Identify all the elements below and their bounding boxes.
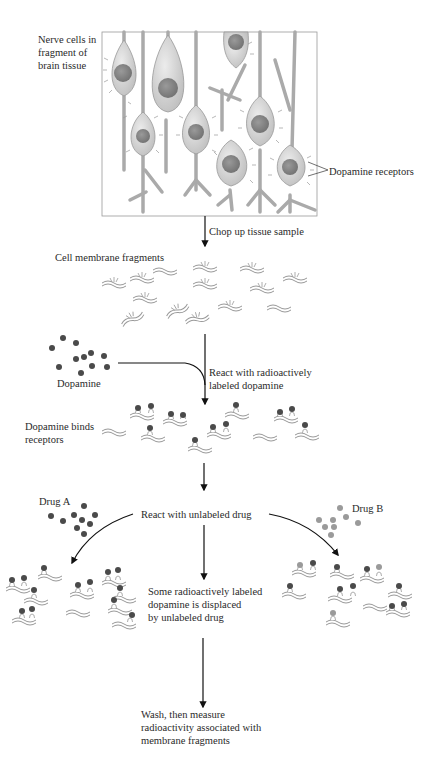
label-line: labeled dopamine	[209, 379, 312, 392]
label-displaced: Some radioactively labeled dopamine is d…	[148, 585, 262, 624]
label-dopamine-receptors: Dopamine receptors	[329, 165, 414, 178]
label-wash-measure: Wash, then measure radioactivity associa…	[141, 708, 261, 747]
dopamine-merge-line	[118, 363, 205, 385]
label-line: membrane fragments	[141, 734, 261, 747]
label-line: by unlabeled drug	[148, 611, 262, 624]
label-line: React with radioactively	[209, 366, 312, 379]
drug-a-molecules	[48, 503, 98, 537]
drug-b-result-fragments	[282, 560, 412, 627]
label-step-react-dopamine: React with radioactively labeled dopamin…	[209, 366, 312, 392]
label-line: Some radioactively labeled	[148, 585, 262, 598]
label-nerve-cells: Nerve cells in fragment of brain tissue	[38, 33, 96, 72]
label-membrane-fragments: Cell membrane fragments	[55, 251, 164, 264]
membrane-fragments	[102, 261, 307, 328]
label-step-react-drug: React with unlabeled drug	[141, 508, 252, 521]
label-drug-a: Drug A	[39, 495, 70, 508]
label-line: receptors	[25, 433, 94, 446]
brain-tissue-box	[102, 32, 317, 216]
arrow-to-drug-b	[269, 514, 338, 555]
label-step-chop: Chop up tissue sample	[209, 225, 304, 238]
bound-receptor-fragments	[102, 402, 319, 453]
label-line: radioactivity associated with	[141, 721, 261, 734]
label-dopamine-binds: Dopamine binds receptors	[25, 420, 94, 446]
label-line: brain tissue	[38, 59, 96, 72]
label-dopamine: Dopamine	[57, 377, 101, 390]
label-drug-b: Drug B	[352, 502, 383, 515]
label-line: dopamine is displaced	[148, 598, 262, 611]
drug-a-result-fragments	[6, 565, 136, 629]
label-line: Wash, then measure	[141, 708, 261, 721]
label-line: fragment of	[38, 46, 96, 59]
dopamine-molecules	[49, 335, 110, 376]
label-line: Nerve cells in	[38, 33, 96, 46]
label-line: Dopamine binds	[25, 420, 94, 433]
